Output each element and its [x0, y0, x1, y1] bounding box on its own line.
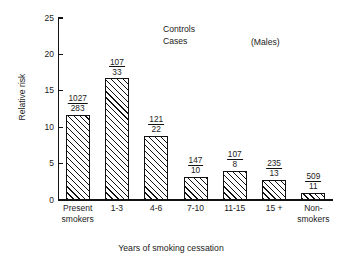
sex-note: (Males): [251, 37, 280, 49]
x-category-label: Non- smokers: [294, 203, 333, 224]
bar-slot: 10733: [105, 18, 129, 200]
x-category-label: Present smokers: [58, 203, 97, 224]
bar-value-fraction: 23513: [266, 159, 282, 178]
y-tick-label-10: 10: [45, 123, 54, 132]
bar[interactable]: [262, 180, 286, 200]
controls-count: 107: [109, 58, 125, 68]
cases-count: 33: [109, 67, 125, 76]
controls-count: 509: [305, 172, 321, 182]
y-tick-label-20: 20: [45, 50, 54, 59]
bar-value-fraction: 1027283: [67, 94, 87, 113]
bar-chart-figure: 2520151050 Relative risk 102728310733121…: [0, 0, 342, 263]
legend-note: Controls Cases: [163, 24, 195, 47]
bar[interactable]: [144, 136, 168, 200]
controls-count: 147: [188, 156, 204, 166]
bar[interactable]: [301, 193, 325, 200]
bar[interactable]: [66, 115, 90, 200]
y-tick-label-15: 15: [45, 86, 54, 95]
cases-count: 22: [148, 125, 164, 134]
bar-slot: 1027283: [66, 18, 90, 200]
x-category-label: 7-10: [176, 203, 215, 214]
controls-count: 107: [227, 150, 243, 160]
bar[interactable]: [223, 171, 247, 200]
bar-value-fraction: 14710: [188, 156, 204, 175]
bar-value-fraction: 50911: [305, 172, 321, 191]
cases-count: 283: [67, 104, 87, 113]
bar-value-fraction: 12122: [148, 115, 164, 134]
x-category-label: 15 +: [254, 203, 293, 214]
bar[interactable]: [184, 177, 208, 200]
bar-slot: 50911: [301, 18, 325, 200]
x-axis-title: Years of smoking cessation: [0, 243, 342, 253]
plot-area: 102728310733121221471010782351350911: [58, 18, 333, 200]
cases-count: 13: [266, 169, 282, 178]
y-tick-label-0: 0: [49, 196, 54, 205]
y-axis-title: Relative risk: [17, 57, 27, 137]
cases-count: 11: [305, 182, 321, 191]
cases-count: 8: [227, 160, 243, 169]
x-category-label: 4-6: [137, 203, 176, 214]
y-tick-label-25: 25: [45, 14, 54, 23]
controls-count: 1027: [67, 94, 87, 104]
controls-count: 235: [266, 159, 282, 169]
bar-slot: 1078: [223, 18, 247, 200]
x-category-label: 1-3: [97, 203, 136, 214]
bar-value-fraction: 10733: [109, 58, 125, 77]
controls-count: 121: [148, 115, 164, 125]
x-category-label: 11-15: [215, 203, 254, 214]
bar[interactable]: [105, 78, 129, 200]
y-tick-label-5: 5: [49, 159, 54, 168]
bar-value-fraction: 1078: [227, 150, 243, 169]
cases-count: 10: [188, 166, 204, 175]
